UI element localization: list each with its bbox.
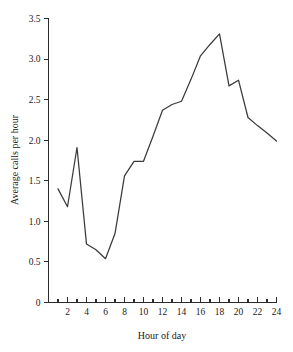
x-tick-label-8: 18 bbox=[215, 307, 225, 317]
x-tick-label-11: 24 bbox=[272, 307, 282, 317]
x-tick-label-5: 12 bbox=[158, 307, 168, 317]
x-tick-label-10: 22 bbox=[253, 307, 263, 317]
y-tick-label-3: 1.5 bbox=[29, 176, 41, 186]
y-tick-label-0: 0 bbox=[36, 298, 41, 308]
x-axis-group: 24681012141618202224 bbox=[49, 297, 282, 317]
x-tick-label-7: 16 bbox=[196, 307, 206, 317]
y-tick-labels: 00.51.01.52.02.53.03.5 bbox=[29, 14, 41, 308]
x-tick-label-1: 4 bbox=[84, 307, 89, 317]
line-chart: 00.51.01.52.02.53.03.5 24681012141618202… bbox=[0, 0, 293, 352]
x-tick-label-0: 2 bbox=[65, 307, 70, 317]
y-axis-title: Average calls per hour bbox=[9, 114, 20, 205]
x-axis-title: Hour of day bbox=[138, 330, 186, 341]
x-tick-label-6: 14 bbox=[177, 307, 187, 317]
y-tick-label-7: 3.5 bbox=[29, 14, 41, 24]
y-tick-label-4: 2.0 bbox=[29, 136, 41, 146]
x-tick-label-2: 6 bbox=[103, 307, 108, 317]
y-axis-group: 00.51.01.52.02.53.03.5 bbox=[29, 14, 49, 308]
chart-figure: 00.51.01.52.02.53.03.5 24681012141618202… bbox=[0, 0, 293, 352]
y-tick-label-5: 2.5 bbox=[29, 95, 41, 105]
y-tick-marks bbox=[44, 19, 49, 303]
x-tick-label-9: 20 bbox=[234, 307, 244, 317]
y-tick-label-6: 3.0 bbox=[29, 54, 41, 64]
x-tick-label-4: 10 bbox=[139, 307, 149, 317]
x-tick-labels: 24681012141618202224 bbox=[65, 307, 281, 317]
x-tick-label-3: 8 bbox=[122, 307, 127, 317]
y-tick-label-2: 1.0 bbox=[29, 217, 41, 227]
y-tick-label-1: 0.5 bbox=[29, 257, 41, 267]
data-series-line bbox=[58, 34, 277, 259]
